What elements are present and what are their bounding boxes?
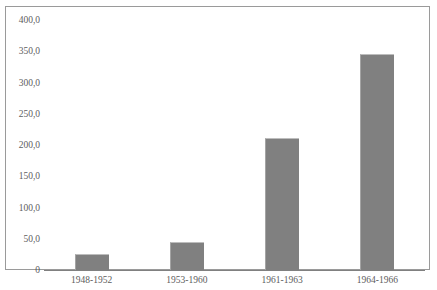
y-axis-tick-label: 350,0 xyxy=(19,46,40,56)
x-axis-tick-label: 1953-1960 xyxy=(139,274,234,286)
y-axis-tick-label: 200,0 xyxy=(19,140,40,150)
x-axis-tick-label: 1961-1963 xyxy=(235,274,330,286)
y-axis: 050,0100,0150,0200,0250,0300,0350,0400,0 xyxy=(0,0,40,290)
x-axis-line xyxy=(44,270,425,271)
x-axis-tick-label: 1964-1966 xyxy=(330,274,425,286)
bar xyxy=(170,242,204,270)
y-axis-tick-label: 400,0 xyxy=(19,15,40,25)
y-axis-tick-label: 250,0 xyxy=(19,109,40,119)
bar xyxy=(265,138,299,271)
bar xyxy=(360,54,394,270)
y-axis-tick-label: 150,0 xyxy=(19,171,40,181)
y-axis-tick-label: 0 xyxy=(35,265,40,275)
bar xyxy=(75,254,109,270)
x-axis-tick-label: 1948-1952 xyxy=(44,274,139,286)
y-axis-tick-label: 300,0 xyxy=(19,78,40,88)
y-axis-tick-label: 100,0 xyxy=(19,203,40,213)
y-axis-tick-label: 50,0 xyxy=(23,234,40,244)
